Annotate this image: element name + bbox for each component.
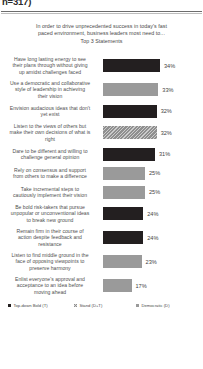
- bar-track: 25%: [103, 183, 203, 202]
- bar-value-label: 24%: [143, 235, 158, 241]
- bar-label-line: Take incremental steps to: [0, 186, 100, 193]
- bar-label-line: challenge general opinion: [0, 154, 100, 161]
- bar-label-line: from others to make a difference: [0, 173, 100, 180]
- chart-title-line-2: paced environment, business leaders most…: [22, 30, 181, 37]
- header-divider: [1, 11, 202, 12]
- chart-row: Listen to find middle ground in theface …: [0, 250, 203, 274]
- bar-label: Listen to the views of others butmake th…: [0, 123, 103, 143]
- legend-label: Stand (D+T): [79, 303, 102, 308]
- bar-label-line: resistance: [0, 241, 100, 248]
- bar-value-label: 33%: [158, 87, 173, 93]
- bar-track: 17%: [103, 274, 203, 298]
- chart-row: Rely on consensus and supportfrom others…: [0, 164, 203, 183]
- bar-label-line: Listen to the views of others but: [0, 123, 100, 130]
- bar-dark: [103, 59, 160, 72]
- bar-value-label: 23%: [142, 259, 157, 265]
- legend-item[interactable]: Stand (D+T): [74, 303, 136, 308]
- chart-title-line-3: Top 3 Statements: [22, 38, 181, 46]
- bar-label-line: to break new ground: [0, 217, 100, 224]
- chart-row: Be bold risk-takers that pursueunpopular…: [0, 202, 203, 226]
- bar-dark: [103, 148, 155, 161]
- bar-label-line: make their own decisions of what is: [0, 129, 100, 136]
- bar-gray: [103, 255, 142, 268]
- bar-track: 33%: [103, 78, 203, 102]
- bar-dark: [103, 105, 157, 118]
- legend-item[interactable]: Top-down Bold (T): [8, 303, 74, 308]
- bar-label-line: Listen to find middle ground in the: [0, 252, 100, 259]
- bar-label-line: their plans through without giving: [0, 62, 100, 69]
- bar-value-label: 25%: [145, 170, 160, 176]
- sample-size-header: n=317): [0, 0, 203, 11]
- bar-value-label: 34%: [160, 63, 175, 69]
- bar-label: Rely on consensus and supportfrom others…: [0, 167, 103, 180]
- bar-label-line: cautiously implement their vision: [0, 192, 100, 199]
- bar-label-line: Remain firm in their course of: [0, 228, 100, 235]
- bar-label-line: acceptance to an idea before: [0, 282, 100, 289]
- bar-dark: [103, 207, 143, 220]
- bar-value-label: 17%: [132, 283, 147, 289]
- bar-label: Use a democratic and collaborativestyle …: [0, 80, 103, 100]
- sample-size-text: n=317): [2, 0, 31, 7]
- bar-value-label: 32%: [157, 130, 172, 136]
- bar-label: Dare to be different and willing tochall…: [0, 148, 103, 161]
- legend-label: Democratic (D): [141, 303, 169, 308]
- bar-label: Remain firm in their course ofaction des…: [0, 228, 103, 248]
- bar-label: Take incremental steps tocautiously impl…: [0, 186, 103, 199]
- bar-label-line: yet exist: [0, 111, 100, 118]
- chart-title: In order to drive unprecedented success …: [0, 14, 203, 46]
- bar-label-line: up amidst challenges faced: [0, 69, 100, 76]
- chart-legend: Top-down Bold (T)Stand (D+T)Democratic (…: [0, 298, 203, 308]
- bar-dark: [103, 231, 143, 244]
- legend-item[interactable]: Democratic (D): [136, 303, 170, 308]
- bar-label-line: Rely on consensus and support: [0, 167, 100, 174]
- bar-value-label: 24%: [143, 211, 158, 217]
- bar-value-label: 31%: [155, 151, 170, 157]
- bar-value-label: 25%: [145, 189, 160, 195]
- bar-track: 25%: [103, 164, 203, 183]
- bar-track: 24%: [103, 226, 203, 250]
- bar-track: 24%: [103, 202, 203, 226]
- chart-row: Listen to the views of others butmake th…: [0, 121, 203, 145]
- bar-label-line: Have long lasting energy to see: [0, 56, 100, 63]
- bar-track: 32%: [103, 102, 203, 121]
- bar-gray: [103, 279, 132, 292]
- bar-label-line: preserve harmony: [0, 265, 100, 272]
- bar-label-line: action despite feedback and: [0, 234, 100, 241]
- bar-label-line: right: [0, 136, 100, 143]
- bar-label: Have long lasting energy to seetheir pla…: [0, 56, 103, 76]
- bar-label-line: unpopular or unconventional ideas: [0, 210, 100, 217]
- bar-label: Envision audacious ideas that don'tyet e…: [0, 105, 103, 118]
- chart-row: Have long lasting energy to seetheir pla…: [0, 54, 203, 78]
- bar-label-line: Use a democratic and collaborative: [0, 80, 100, 87]
- bar-label: Listen to find middle ground in theface …: [0, 252, 103, 272]
- horizontal-bar-chart: Have long lasting energy to seetheir pla…: [0, 46, 203, 298]
- bar-gray: [103, 186, 145, 199]
- chart-row: Envision audacious ideas that don'tyet e…: [0, 102, 203, 121]
- legend-swatch-gray: [136, 304, 139, 307]
- bar-label-line: moving ahead: [0, 289, 100, 296]
- bar-label-line: Envision audacious ideas that don't: [0, 105, 100, 112]
- bar-track: 31%: [103, 145, 203, 164]
- bar-track: 34%: [103, 54, 203, 78]
- chart-title-line-1: In order to drive unprecedented success …: [22, 23, 181, 30]
- bar-label-line: face of opposing viewpoints to: [0, 258, 100, 265]
- bar-label-line: Dare to be different and willing to: [0, 148, 100, 155]
- chart-row: Dare to be different and willing tochall…: [0, 145, 203, 164]
- bar-label-line: Be bold risk-takers that pursue: [0, 204, 100, 211]
- bar-label: Be bold risk-takers that pursueunpopular…: [0, 204, 103, 224]
- bar-value-label: 32%: [157, 108, 172, 114]
- bar-hatch: [103, 126, 157, 139]
- bar-track: 23%: [103, 250, 203, 274]
- bar-gray: [103, 167, 145, 180]
- chart-row: Remain firm in their course ofaction des…: [0, 226, 203, 250]
- bar-label-line: style of leadership in achieving: [0, 86, 100, 93]
- bar-label-line: Enlist everyone's approval and: [0, 276, 100, 283]
- legend-label: Top-down Bold (T): [13, 303, 47, 308]
- chart-row: Take incremental steps tocautiously impl…: [0, 183, 203, 202]
- chart-row: Enlist everyone's approval andacceptance…: [0, 274, 203, 298]
- legend-swatch-hatch: [74, 304, 77, 307]
- bar-label-line: their vision: [0, 93, 100, 100]
- chart-row: Use a democratic and collaborativestyle …: [0, 78, 203, 102]
- bar-gray: [103, 83, 158, 96]
- bar-track: 32%: [103, 121, 203, 145]
